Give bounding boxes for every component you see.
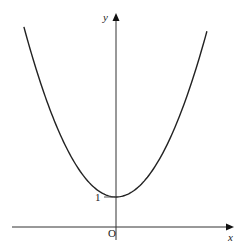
- x-axis-arrow-icon: [226, 224, 234, 231]
- y-axis-label: y: [102, 11, 108, 23]
- function-graph: y x O 1: [0, 0, 246, 249]
- x-axis-label: x: [227, 231, 233, 243]
- y-axis-arrow-icon: [113, 13, 120, 21]
- origin-label: O: [108, 227, 116, 239]
- y-intercept-label: 1: [95, 191, 101, 203]
- curve-path: [24, 27, 207, 197]
